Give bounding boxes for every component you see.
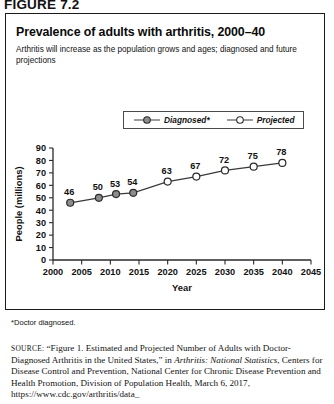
x-axis-tick-label: 2010 xyxy=(100,267,120,277)
data-point-label: 53 xyxy=(110,179,120,189)
footnote: *Doctor diagnosed. xyxy=(11,318,76,327)
y-axis-tick-label: 20 xyxy=(36,230,46,240)
legend-label-projected: Projected xyxy=(257,115,295,125)
data-point-label: 67 xyxy=(190,161,200,171)
panel-subtitle: Arthritis will increase as the populatio… xyxy=(16,45,313,66)
data-point-marker xyxy=(222,167,229,174)
data-point-label: 46 xyxy=(64,187,74,197)
source-italic-title: Arthritis: National Statistics xyxy=(174,355,277,365)
data-point-marker xyxy=(250,163,257,170)
filled-circle-icon xyxy=(133,115,161,125)
x-axis-tick-label: 2030 xyxy=(215,267,235,277)
y-axis-tick-label: 40 xyxy=(36,206,46,216)
data-point-marker xyxy=(67,199,74,206)
y-axis-tick-label: 70 xyxy=(36,168,46,178)
data-point-label: 54 xyxy=(127,177,138,187)
y-axis-tick-label: 60 xyxy=(36,181,46,191)
y-axis-tick-label: 50 xyxy=(36,193,46,203)
page-title: Prevalence of adults with arthritis, 200… xyxy=(16,25,265,39)
x-axis-tick-label: 2045 xyxy=(301,267,321,277)
legend-label-diagnosed: Diagnosed* xyxy=(164,115,210,125)
chart-legend: Diagnosed* Projected xyxy=(123,111,304,129)
figure-number: FIGURE 7.2 xyxy=(4,0,80,12)
y-axis-tick-label: 0 xyxy=(41,255,46,265)
data-point-marker xyxy=(113,191,120,198)
chart-area: 0102030405060708090200020052010201520202… xyxy=(6,132,326,310)
legend-item-diagnosed: Diagnosed* xyxy=(133,115,210,125)
y-axis-title: People (millions) xyxy=(13,166,24,241)
source-note: SOURCE: “Figure 1. Estimated and Project… xyxy=(11,343,327,401)
data-point-marker xyxy=(193,173,200,180)
figure-panel: Prevalence of adults with arthritis, 200… xyxy=(5,13,325,310)
y-axis-tick-label: 90 xyxy=(36,143,46,153)
data-point-marker xyxy=(164,178,171,185)
data-point-marker xyxy=(279,159,286,166)
data-point-label: 50 xyxy=(93,182,103,192)
y-axis-tick-label: 80 xyxy=(36,156,46,166)
x-axis-tick-label: 2015 xyxy=(129,267,149,277)
line-chart: 0102030405060708090200020052010201520202… xyxy=(6,132,326,310)
x-axis-tick-label: 2020 xyxy=(157,267,177,277)
source-prefix: SOURCE: xyxy=(11,344,44,353)
y-axis-tick-label: 10 xyxy=(36,243,46,253)
x-axis-tick-label: 2025 xyxy=(186,267,206,277)
data-point-marker xyxy=(95,194,102,201)
x-axis-tick-label: 2005 xyxy=(71,267,91,277)
data-point-label: 63 xyxy=(162,166,172,176)
data-point-label: 72 xyxy=(219,155,229,165)
data-point-marker xyxy=(130,189,137,196)
open-circle-icon xyxy=(226,115,254,125)
x-axis-tick-label: 2000 xyxy=(43,267,63,277)
x-axis-tick-label: 2040 xyxy=(272,267,292,277)
y-axis-tick-label: 30 xyxy=(36,218,46,228)
data-point-label: 78 xyxy=(276,147,286,157)
data-point-label: 75 xyxy=(248,151,258,161)
x-axis-tick-label: 2035 xyxy=(243,267,263,277)
x-axis-title: Year xyxy=(172,282,192,293)
legend-item-projected: Projected xyxy=(226,115,295,125)
